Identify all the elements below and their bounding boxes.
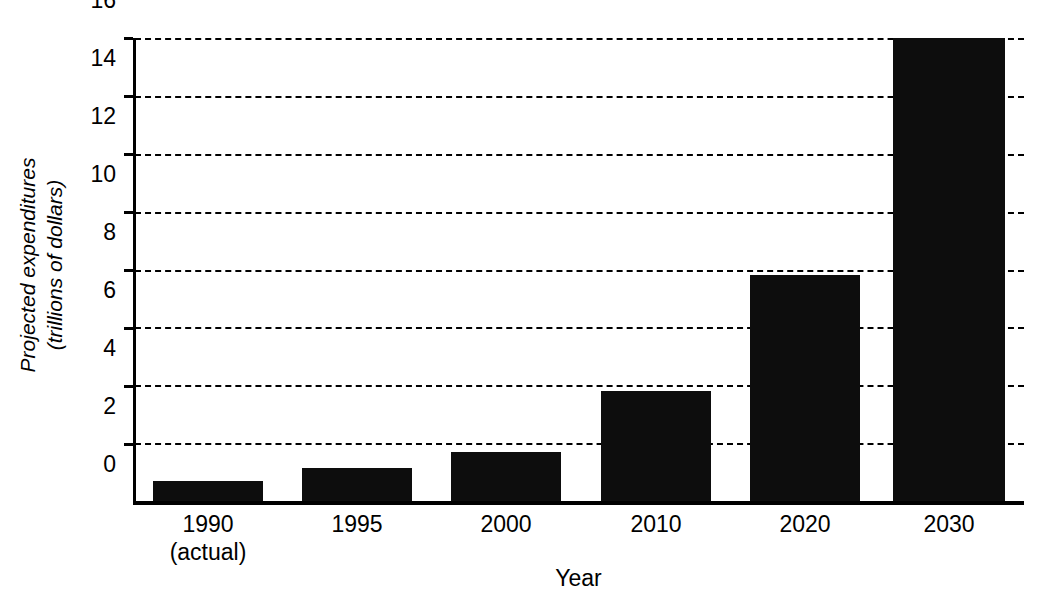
bar-2020: [750, 275, 860, 501]
x-axis-line: [133, 501, 1024, 505]
y-axis-title-line-1: Projected expenditures: [14, 30, 41, 500]
gridline-16: [135, 38, 1024, 40]
y-tick-mark-4: [124, 385, 133, 388]
y-axis-title-line-2: (trillions of dollars): [41, 30, 68, 500]
x-tick-label-2000: 2000: [431, 510, 581, 538]
x-tick-label-1995-year: 1995: [331, 511, 382, 537]
x-tick-label-2020: 2020: [730, 510, 880, 538]
gridline-6: [135, 327, 1024, 329]
y-tick-mark-12: [124, 153, 133, 156]
bar-2030: [893, 38, 1005, 501]
x-tick-label-2010-year: 2010: [630, 511, 681, 537]
y-tick-mark-2: [124, 443, 133, 446]
x-tick-label-1990-sub: (actual): [133, 538, 283, 566]
gridline-4: [135, 385, 1024, 387]
y-tick-label-10: 10: [62, 163, 116, 186]
x-tick-label-2000-year: 2000: [480, 511, 531, 537]
bar-1995: [302, 468, 412, 501]
gridline-2: [135, 443, 1024, 445]
x-tick-label-2030-year: 2030: [923, 511, 974, 537]
bar-2010: [601, 391, 711, 501]
gridline-8: [135, 270, 1024, 272]
y-tick-mark-16: [124, 37, 133, 40]
y-tick-label-16: 16: [62, 0, 116, 12]
bar-1990: [153, 481, 263, 501]
x-axis-title: Year: [133, 565, 1024, 592]
y-tick-mark-10: [124, 211, 133, 214]
gridline-10: [135, 212, 1024, 214]
y-tick-label-8: 8: [62, 221, 116, 244]
bar-chart-figure: Projected expenditures (trillions of dol…: [0, 0, 1046, 610]
x-tick-label-2010: 2010: [581, 510, 731, 538]
x-tick-label-1995: 1995: [282, 510, 432, 538]
y-axis-title: Projected expenditures (trillions of dol…: [14, 30, 76, 500]
y-tick-mark-14: [124, 95, 133, 98]
y-tick-label-6: 6: [62, 279, 116, 302]
y-tick-mark-6: [124, 327, 133, 330]
plot-area: [133, 38, 1024, 501]
y-tick-mark-8: [124, 269, 133, 272]
y-tick-label-0: 0: [62, 453, 116, 476]
y-tick-label-14: 14: [62, 47, 116, 70]
x-tick-label-1990-year: 1990: [182, 511, 233, 537]
y-tick-label-2: 2: [62, 395, 116, 418]
y-tick-label-12: 12: [62, 105, 116, 128]
gridline-14: [135, 96, 1024, 98]
gridline-12: [135, 154, 1024, 156]
bar-2000: [451, 452, 561, 501]
x-tick-label-2020-year: 2020: [779, 511, 830, 537]
x-tick-label-1990: 1990 (actual): [133, 510, 283, 566]
x-tick-label-2030: 2030: [874, 510, 1024, 538]
y-tick-label-4: 4: [62, 337, 116, 360]
